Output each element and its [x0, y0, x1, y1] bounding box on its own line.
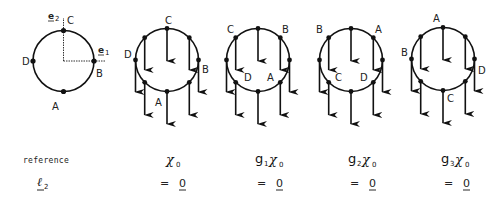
g2x0-label-upper-right: A [375, 24, 382, 35]
g2x0-label-lower-left: C [335, 72, 342, 83]
configuration-g1x0 [224, 26, 292, 124]
x0-label-right: B [202, 64, 209, 75]
point-label-b: B [96, 68, 103, 79]
svg-text:2: 2 [357, 160, 361, 168]
value-g1x0-l2: = 0 [257, 177, 283, 190]
row-label-l2: ℓ 2 [37, 175, 48, 191]
svg-text:2: 2 [55, 15, 59, 23]
svg-text:=: = [444, 177, 453, 190]
row-label-reference: reference [23, 156, 69, 165]
value-x0-l2: = 0 [160, 177, 186, 190]
g2x0-label-upper-left: B [316, 24, 323, 35]
reference-circle [30, 18, 106, 94]
svg-text:χ: χ [268, 152, 278, 167]
caption-g3x0: g 3 χ 0 [441, 151, 469, 169]
svg-text:0: 0 [463, 177, 470, 190]
caption-x0: χ 0 [165, 152, 180, 169]
svg-text:e: e [48, 11, 54, 21]
svg-text:3: 3 [450, 160, 454, 168]
svg-text:0: 0 [176, 161, 180, 169]
svg-text:0: 0 [179, 177, 186, 190]
svg-text:g: g [255, 151, 263, 166]
svg-text:=: = [257, 177, 266, 190]
svg-text:0: 0 [372, 161, 376, 169]
value-g2x0-l2: = 0 [350, 177, 376, 190]
g3x0-label-top: A [433, 13, 440, 24]
svg-text:1: 1 [105, 49, 109, 57]
svg-text:χ: χ [454, 152, 464, 167]
configuration-g3x0 [409, 25, 477, 123]
value-g3x0-l2: = 0 [444, 177, 470, 190]
g3x0-label-bottom: C [447, 93, 454, 104]
axis-label-e2: e 2 [48, 11, 59, 23]
svg-text:=: = [350, 177, 359, 190]
g3x0-label-left: B [401, 47, 408, 58]
svg-text:g: g [348, 151, 356, 166]
svg-text:χ: χ [361, 152, 371, 167]
caption-g1x0: g 1 χ 0 [255, 151, 283, 169]
point-label-c: C [67, 15, 74, 26]
svg-text:e: e [98, 45, 104, 55]
g1x0-label-upper-right: B [282, 24, 289, 35]
svg-text:0: 0 [279, 161, 283, 169]
g1x0-label-lower-right: A [267, 72, 274, 83]
svg-text:2: 2 [44, 183, 48, 191]
point-label-d: D [22, 56, 30, 67]
g2x0-label-lower-right: D [360, 72, 368, 83]
configuration-g2x0 [317, 26, 385, 124]
configuration-x0 [133, 26, 201, 124]
g1x0-label-upper-left: C [227, 24, 234, 35]
point-label-a: A [52, 101, 59, 112]
svg-text:0: 0 [465, 161, 469, 169]
axis-label-e1: e 1 [98, 45, 109, 57]
caption-g2x0: g 2 χ 0 [348, 151, 376, 169]
svg-text:1: 1 [264, 160, 268, 168]
svg-text:ℓ: ℓ [37, 175, 42, 189]
x0-label-bottom: A [155, 97, 162, 108]
x0-label-top: C [165, 15, 172, 26]
svg-text:χ: χ [165, 152, 175, 167]
x0-label-left: D [124, 49, 132, 60]
svg-text:=: = [160, 177, 169, 190]
g1x0-label-lower-left: D [244, 72, 252, 83]
diagram-canvas: C B A D e 2 e 1 C B A D [0, 0, 503, 202]
svg-text:0: 0 [369, 177, 376, 190]
svg-text:0: 0 [276, 177, 283, 190]
svg-text:g: g [441, 151, 449, 166]
g3x0-label-right: D [478, 65, 486, 76]
